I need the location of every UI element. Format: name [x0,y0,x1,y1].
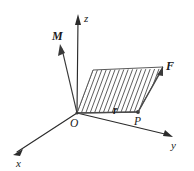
x-axis-arrowhead [13,149,23,156]
hatch-line [130,69,146,112]
axis-group-x [13,113,77,156]
hatch-line [117,69,133,112]
hatch-line [90,70,106,113]
origin-point-label: O [70,118,78,130]
m-vector-label: M [52,30,63,42]
y-axis-line [77,113,169,135]
axis-group-z [75,14,81,113]
p-point-label: P [134,116,141,128]
hatch-line [143,69,159,112]
y-axis-label: y [171,140,176,151]
z-axis-line [77,19,78,113]
hatch-line [86,70,102,113]
m-vector-arrowhead [58,44,65,56]
o-point-marker [75,111,78,114]
hatch-line [165,69,181,112]
hatch-line [81,70,97,113]
r-vector-label: r [113,105,117,117]
hatch-fill [77,69,181,113]
z-axis-label: z [84,13,88,24]
z-axis-arrowhead [75,14,81,25]
r-vector-line [77,112,138,113]
moment-area-parallelogram [77,67,181,113]
x-axis-line [17,113,77,152]
y-axis-arrowhead [163,130,173,137]
f-vector-label: F [166,60,174,72]
hatch-line-set [77,69,181,113]
vector-diagram-figure: z x y M F r O P [0,0,194,171]
hatch-line [125,69,141,112]
m-vector-line [62,49,77,113]
hatch-line [121,69,137,112]
hatch-line [95,70,111,113]
x-axis-label: x [16,158,21,169]
diagram-canvas [0,0,194,171]
vector-group-m [58,44,77,113]
vector-group-f [138,66,163,112]
axis-group-y [77,113,173,137]
